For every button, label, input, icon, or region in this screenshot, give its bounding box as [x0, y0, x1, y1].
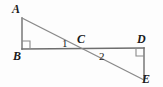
vertex-label-c: C	[77, 33, 85, 45]
right-angle-marker-d	[136, 48, 144, 56]
vertex-label-b: B	[13, 50, 21, 62]
angle-label-1: 1	[62, 38, 68, 49]
vertex-label-a: A	[12, 3, 20, 15]
geometry-figure: A B C D E 1 2	[0, 0, 163, 87]
vertex-label-e: E	[142, 73, 150, 85]
right-angle-marker-b	[22, 41, 30, 49]
vertex-label-d: D	[137, 33, 146, 45]
angle-label-2: 2	[99, 51, 105, 62]
